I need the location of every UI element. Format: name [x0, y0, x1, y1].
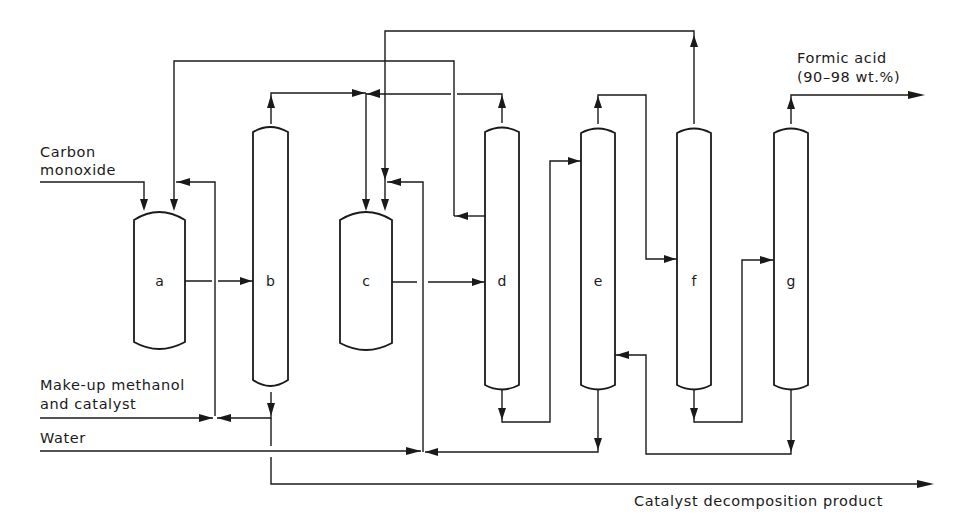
column-b: b — [253, 127, 288, 386]
recycle-to-a-pipe — [170, 61, 485, 220]
unit-label-g: g — [787, 273, 796, 289]
f-bottoms-pipe — [690, 256, 774, 422]
g-bottoms-pipe — [615, 351, 795, 454]
methanol-label-line1: Make-up methanol — [40, 377, 185, 393]
reactor-c: c — [340, 212, 392, 350]
carbon-monoxide-pipe — [40, 182, 148, 211]
process-flow-diagram: a b c d e f g — [0, 0, 966, 526]
column-d: d — [485, 128, 519, 390]
d-overhead-pipe — [366, 89, 506, 123]
column-g: g — [774, 129, 808, 390]
formic-acid-label-line1: Formic acid — [797, 50, 887, 66]
e-overhead-pipe — [594, 95, 677, 263]
water-pipe — [40, 447, 421, 455]
c-to-d-pipe — [392, 278, 485, 286]
reactor-a: a — [134, 212, 185, 349]
unit-label-a: a — [155, 273, 164, 289]
catalyst-decomposition-pipe — [271, 418, 934, 488]
methanol-label-line2: and catalyst — [40, 396, 136, 412]
formic-acid-product-pipe — [787, 91, 925, 124]
b-overhead-pipe — [267, 89, 370, 211]
column-f: f — [677, 129, 711, 390]
unit-label-e: e — [594, 273, 603, 289]
column-e: e — [581, 129, 615, 390]
catalyst-decomposition-label: Catalyst decomposition product — [634, 493, 883, 509]
d-bottoms-pipe — [498, 157, 581, 422]
unit-label-f: f — [692, 273, 698, 289]
a-to-b-pipe — [185, 277, 253, 285]
unit-label-c: c — [362, 273, 370, 289]
carbon-monoxide-label-line2: monoxide — [40, 162, 116, 178]
unit-label-b: b — [266, 273, 275, 289]
carbon-monoxide-label-line1: Carbon — [40, 144, 96, 160]
formic-acid-label-line2: (90–98 wt.%) — [797, 69, 900, 85]
unit-label-d: d — [498, 273, 507, 289]
e-bottoms-pipe — [425, 390, 602, 456]
water-label: Water — [40, 430, 86, 446]
f-overhead-pipe — [381, 31, 698, 211]
